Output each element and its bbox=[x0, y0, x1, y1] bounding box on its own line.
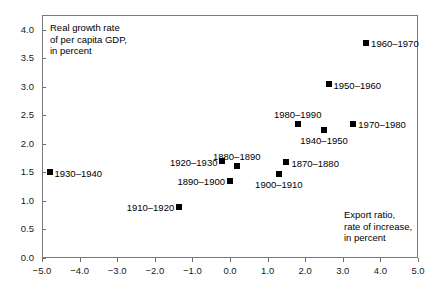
data-point-label: 1960–1970 bbox=[371, 38, 419, 49]
x-tick-label: 3.0 bbox=[336, 266, 349, 276]
data-point-label: 1930–1940 bbox=[55, 167, 103, 178]
y-tick-label: 0.0 bbox=[8, 253, 34, 263]
x-tick-mark bbox=[192, 258, 193, 262]
x-tick-label: 2.0 bbox=[299, 266, 312, 276]
data-point-marker bbox=[295, 121, 301, 127]
x-tick-mark bbox=[80, 258, 81, 262]
data-point-label: 1940–1950 bbox=[300, 135, 348, 146]
data-point-label: 1870–1880 bbox=[291, 157, 339, 168]
y-tick-mark bbox=[42, 144, 46, 145]
x-tick-label: 4.0 bbox=[374, 266, 387, 276]
x-tick-label: −4.0 bbox=[70, 266, 89, 276]
y-tick-label: 4.0 bbox=[8, 25, 34, 35]
y-tick-label: 2.5 bbox=[8, 110, 34, 120]
data-point-marker bbox=[363, 40, 369, 46]
data-point-marker bbox=[227, 178, 233, 184]
y-tick-mark bbox=[42, 201, 46, 202]
data-point-marker bbox=[326, 81, 332, 87]
data-point-label: 1980–1990 bbox=[274, 109, 322, 120]
x-tick-mark bbox=[418, 258, 419, 262]
x-tick-label: −5.0 bbox=[33, 266, 52, 276]
y-tick-mark bbox=[42, 58, 46, 59]
y-tick-mark bbox=[42, 258, 46, 259]
y-tick-mark bbox=[42, 229, 46, 230]
data-point-label: 1970–1980 bbox=[358, 119, 406, 130]
data-point-marker bbox=[321, 127, 327, 133]
data-point-marker bbox=[283, 159, 289, 165]
x-tick-mark bbox=[155, 258, 156, 262]
y-tick-mark bbox=[42, 115, 46, 116]
data-point-label: 1900–1910 bbox=[255, 179, 303, 190]
data-point-label: 1920–1930 bbox=[170, 156, 218, 167]
data-point-marker bbox=[47, 169, 53, 175]
data-point-label: 1890–1900 bbox=[177, 176, 225, 187]
scatter-chart: −5.0−4.0−3.0−2.0−1.00.01.02.03.04.05.0 0… bbox=[0, 0, 442, 285]
x-tick-mark bbox=[305, 258, 306, 262]
data-point-label: 1880–1890 bbox=[213, 151, 261, 162]
x-tick-label: −1.0 bbox=[183, 266, 202, 276]
data-point-marker bbox=[234, 163, 240, 169]
y-tick-label: 0.5 bbox=[8, 224, 34, 234]
x-tick-label: −2.0 bbox=[145, 266, 164, 276]
y-tick-label: 3.0 bbox=[8, 82, 34, 92]
y-tick-label: 3.5 bbox=[8, 53, 34, 63]
x-tick-label: 1.0 bbox=[261, 266, 274, 276]
y-tick-label: 2.0 bbox=[8, 139, 34, 149]
x-tick-mark bbox=[268, 258, 269, 262]
y-tick-label: 1.5 bbox=[8, 167, 34, 177]
x-tick-mark bbox=[380, 258, 381, 262]
data-point-label: 1950–1960 bbox=[334, 79, 382, 90]
data-point-label: 1910–1920 bbox=[127, 202, 175, 213]
x-axis-note: Export ratio, rate of increase, in perce… bbox=[344, 209, 412, 244]
x-tick-mark bbox=[117, 258, 118, 262]
y-tick-mark bbox=[42, 30, 46, 31]
y-axis-note: Real growth rate of per capita GDP, in p… bbox=[50, 22, 127, 57]
x-tick-label: 5.0 bbox=[411, 266, 424, 276]
data-point-marker bbox=[176, 204, 182, 210]
x-tick-mark bbox=[343, 258, 344, 262]
x-tick-label: 0.0 bbox=[223, 266, 236, 276]
y-tick-mark bbox=[42, 172, 46, 173]
y-tick-label: 1.0 bbox=[8, 196, 34, 206]
x-tick-mark bbox=[230, 258, 231, 262]
data-point-marker bbox=[276, 171, 282, 177]
y-tick-mark bbox=[42, 87, 46, 88]
x-tick-label: −3.0 bbox=[108, 266, 127, 276]
data-point-marker bbox=[350, 121, 356, 127]
